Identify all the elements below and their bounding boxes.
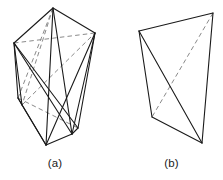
figure-a-edge-10	[46, 33, 95, 145]
figure-a-edge-9	[78, 33, 95, 128]
figure-b-polyhedron	[139, 13, 213, 143]
figure-a-edge-7	[14, 43, 72, 134]
figure-b-edge-4	[202, 13, 213, 143]
figure-b-visible-edges	[139, 13, 213, 143]
figure-a-polyhedron	[14, 8, 95, 145]
figure-b-edge-2	[139, 31, 152, 117]
figure-b-hidden-edges	[152, 13, 213, 117]
figure-b-edge-1	[139, 13, 213, 31]
figure-b-caption: (b)	[120, 157, 223, 169]
figure-a-edge-8	[14, 43, 78, 128]
figure-a-edge-2	[53, 8, 95, 33]
figure-a-edge-16	[72, 33, 95, 134]
figure-panel: (a) (b)	[0, 0, 223, 180]
figure-a-hidden-edge-2	[18, 8, 53, 98]
polyhedra-diagram	[0, 0, 223, 180]
figure-b-hidden-edge-1	[152, 13, 213, 117]
figure-a-caption: (a)	[0, 157, 110, 169]
figure-a-edge-3	[46, 8, 53, 145]
figure-a-hidden-edge-3	[14, 33, 95, 43]
